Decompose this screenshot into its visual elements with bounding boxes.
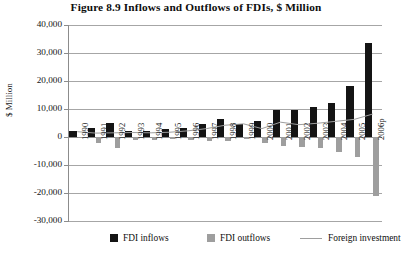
y-axis-tick [64, 109, 69, 110]
y-axis-tick [64, 193, 69, 194]
y-axis-tick [64, 25, 69, 26]
legend-swatch-foreign-investment-line [300, 238, 322, 239]
y-axis-tick [64, 165, 69, 166]
y-axis-tick [64, 221, 69, 222]
x-axis-tick-label: 1997 [210, 123, 220, 140]
legend-swatch-inflows [110, 234, 118, 242]
x-axis-tick-label: 2001 [284, 123, 294, 140]
x-axis-tick-label: 1999 [247, 123, 257, 140]
x-axis-tick-label: 1994 [154, 123, 164, 140]
y-axis-tick-label: -10,000 [2, 159, 62, 169]
y-axis-tick-labels: 40,00030,00020,00010,0000-10,000-20,000-… [0, 0, 62, 254]
chart-legend: FDI inflows FDI outflows Foreign investm… [0, 230, 392, 250]
x-axis-tick-label: 2004 [339, 123, 349, 140]
y-axis-tick-label: -20,000 [2, 187, 62, 197]
x-axis-tick-label: 2003 [321, 123, 331, 140]
x-axis-tick-label: 2002 [302, 123, 312, 140]
legend-label-inflows: FDI inflows [123, 230, 169, 247]
y-axis-tick-label: 30,000 [2, 47, 62, 57]
plot-area [68, 25, 382, 221]
legend-label-outflows: FDI outflows [220, 230, 270, 247]
y-axis-tick [64, 53, 69, 54]
foreign-investment-line [68, 25, 382, 221]
x-axis-tick-label: 1992 [117, 123, 127, 140]
x-axis-tick-label: 1998 [228, 123, 238, 140]
gridline [68, 221, 382, 222]
y-axis-tick-label: 40,000 [2, 19, 62, 29]
y-axis-tick-label: -30,000 [2, 215, 62, 225]
x-axis-tick-label: 1995 [173, 123, 183, 140]
y-axis-tick [64, 137, 69, 138]
x-axis-tick-label: 2005 [357, 123, 367, 140]
x-axis-tick-label: 1996 [191, 123, 201, 140]
y-axis-tick [64, 81, 69, 82]
x-axis-tick-label: 2006p [376, 119, 386, 140]
x-axis-tick-label: 1991 [99, 123, 109, 140]
x-axis-tick-label: 1990 [80, 123, 90, 140]
y-axis-tick-label: 20,000 [2, 75, 62, 85]
y-axis-tick-label: 10,000 [2, 103, 62, 113]
x-axis-tick-label: 1993 [136, 123, 146, 140]
legend-label-foreign-investment: Foreign investment [328, 230, 401, 247]
y-axis-tick-label: 0 [2, 131, 62, 141]
legend-swatch-outflows [207, 234, 215, 242]
x-axis-tick-label: 2000 [265, 123, 275, 140]
